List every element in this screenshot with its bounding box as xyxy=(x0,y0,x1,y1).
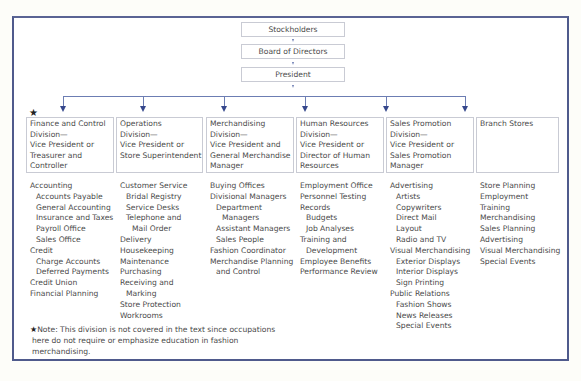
list-item: Customer Service xyxy=(120,181,187,192)
unit-list-operations: Customer Service Bridal Registry Service… xyxy=(120,181,187,321)
division-title-line: Vice President and xyxy=(210,140,290,151)
list-item: Buying Offices xyxy=(210,181,293,192)
list-item: Maintenance xyxy=(120,257,187,268)
division-box-operations: Operations Division— Vice President or S… xyxy=(116,117,203,173)
unit-list-finance: Accounting Accounts Payable General Acco… xyxy=(30,181,113,300)
list-item: Job Analyses xyxy=(300,224,378,235)
list-item: Training xyxy=(480,203,560,214)
list-item: Housekeeping xyxy=(120,246,187,257)
list-item: Store Planning xyxy=(480,181,560,192)
arrow-down-icon xyxy=(302,106,308,112)
unit-list-branch-stores: Store Planning Employment Training Merch… xyxy=(480,181,560,267)
list-item: Merchandise Planning xyxy=(210,257,293,268)
arrow-down-icon xyxy=(140,106,146,112)
list-item: Public Relations xyxy=(390,289,470,300)
list-item: Sign Printing xyxy=(390,278,470,289)
arrow-down-icon xyxy=(221,106,227,112)
arrow-down-icon xyxy=(292,39,294,42)
division-title-line: Branch Stores xyxy=(480,119,555,130)
list-item: Records xyxy=(300,203,378,214)
arrow-down-icon xyxy=(60,106,66,112)
list-item: Special Events xyxy=(390,321,470,332)
division-connector-line xyxy=(63,96,466,97)
division-title-line: Sales Promotion xyxy=(390,119,470,130)
division-title-line: Operations xyxy=(120,119,199,130)
arrow-down-icon xyxy=(462,106,468,112)
unit-list-merchandising: Buying Offices Divisional Managers Depar… xyxy=(210,181,293,278)
footnote: ★Note: This division is not covered in t… xyxy=(30,325,330,357)
list-item: Fashion Shows xyxy=(390,300,470,311)
division-box-merchandising: Merchandising Division— Vice President a… xyxy=(206,117,294,173)
list-item: Payroll Office xyxy=(30,224,113,235)
list-item: Workrooms xyxy=(120,311,187,322)
list-item: Fashion Coordinator xyxy=(210,246,293,257)
list-item: Visual Merchandising xyxy=(480,246,560,257)
list-item: General Accounting xyxy=(30,203,113,214)
list-item: Deferred Payments xyxy=(30,267,113,278)
list-item: Special Events xyxy=(480,257,560,268)
list-item: Assistant Managers xyxy=(210,224,293,235)
division-title-line: Treasurer and xyxy=(30,151,110,162)
list-item: Layout xyxy=(390,224,470,235)
list-item: Mail Order xyxy=(120,224,187,235)
list-item: Artists xyxy=(390,192,470,203)
footnote-line: here do not require or emphasize educati… xyxy=(30,336,330,347)
list-item: Credit Union xyxy=(30,278,113,289)
division-title-line: Vice President or xyxy=(300,140,380,151)
division-title-line: General Merchandise xyxy=(210,151,290,162)
division-box-human-resources: Human Resources Division— Vice President… xyxy=(296,117,384,173)
division-title-line: Division— xyxy=(390,130,470,141)
list-item: Employment Office xyxy=(300,181,378,192)
list-item: Personnel Testing xyxy=(300,192,378,203)
division-title-line: Human Resources xyxy=(300,119,380,130)
list-item: Store Protection xyxy=(120,300,187,311)
list-item: Training and xyxy=(300,235,378,246)
division-title-line: Division— xyxy=(30,130,110,141)
division-title-line: Manager xyxy=(390,161,470,172)
list-item: Receiving and xyxy=(120,278,187,289)
division-box-finance: Finance and Control Division— Vice Presi… xyxy=(26,117,114,173)
list-item: Visual Merchandising xyxy=(390,246,470,257)
unit-list-sales-promotion: Advertising Artists Copywriters Direct M… xyxy=(390,181,470,332)
list-item: Accounts Payable xyxy=(30,192,113,203)
list-item: Insurance and Taxes xyxy=(30,213,113,224)
list-item: Employee Benefits xyxy=(300,257,378,268)
division-box-sales-promotion: Sales Promotion Division— Vice President… xyxy=(386,117,474,173)
list-item: Department xyxy=(210,203,293,214)
division-title-line: Director of Human xyxy=(300,151,380,162)
list-item: Employment xyxy=(480,192,560,203)
stockholders-box: Stockholders xyxy=(241,22,345,37)
president-box: President xyxy=(241,67,345,82)
unit-list-human-resources: Employment Office Personnel Testing Reco… xyxy=(300,181,378,278)
division-title-line: Vice President or xyxy=(30,140,110,151)
division-title-line: Sales Promotion xyxy=(390,151,470,162)
division-title-line: Vice President or xyxy=(390,140,470,151)
list-item: Exterior Displays xyxy=(390,257,470,268)
list-item: Marking xyxy=(120,289,187,300)
list-item: Interior Displays xyxy=(390,267,470,278)
list-item: Copywriters xyxy=(390,203,470,214)
list-item: Divisional Managers xyxy=(210,192,293,203)
list-item: Direct Mail xyxy=(390,213,470,224)
list-item: Sales People xyxy=(210,235,293,246)
division-title-line: Merchandising xyxy=(210,119,290,130)
list-item: Service Desks xyxy=(120,203,187,214)
list-item: Advertising xyxy=(480,235,560,246)
division-title-line: Store Superintendent xyxy=(120,151,199,162)
arrow-down-icon xyxy=(292,85,294,88)
list-item: Development xyxy=(300,246,378,257)
list-item: Sales Planning xyxy=(480,224,560,235)
list-item: Bridal Registry xyxy=(120,192,187,203)
division-title-line: Division— xyxy=(120,130,199,141)
footnote-line: Note: This division is not covered in th… xyxy=(37,325,275,334)
division-title-line: Resources xyxy=(300,161,380,172)
board-of-directors-box: Board of Directors xyxy=(241,44,345,59)
list-item: and Control xyxy=(210,267,293,278)
list-item: Charge Accounts xyxy=(30,257,113,268)
division-title-line: Division— xyxy=(210,130,290,141)
division-title-line: Vice President or xyxy=(120,140,199,151)
list-item: Radio and TV xyxy=(390,235,470,246)
list-item: Performance Review xyxy=(300,267,378,278)
list-item: Purchasing xyxy=(120,267,187,278)
list-item: Credit xyxy=(30,246,113,257)
